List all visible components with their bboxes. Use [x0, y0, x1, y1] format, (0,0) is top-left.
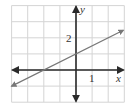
x-axis-label: x	[115, 72, 121, 84]
y-tick-label-2: 2	[66, 32, 72, 44]
x-tick-label-1: 1	[89, 72, 95, 84]
coordinate-plane-chart: y x 2 1	[0, 0, 132, 107]
grid-lines	[12, 6, 125, 103]
y-axis-label: y	[79, 3, 85, 15]
